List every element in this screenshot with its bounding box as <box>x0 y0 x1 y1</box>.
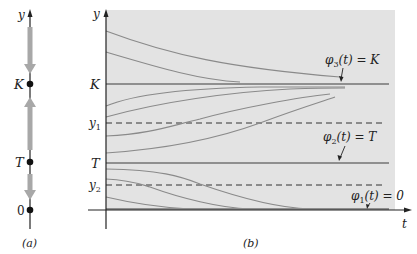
critical-point-0 <box>27 207 34 214</box>
svg-text:φ1(t) = 0: φ1(t) = 0 <box>351 189 404 205</box>
figure: y K T 0 (a) <box>0 0 417 254</box>
plot-background <box>106 10 395 210</box>
y-axis-label: y <box>92 7 100 21</box>
point-label-0: 0 <box>17 204 25 218</box>
critical-point-T <box>27 159 34 166</box>
y-tick-T: T <box>91 156 101 171</box>
flow-arrow-up-middle <box>24 97 36 150</box>
panel-a-axis-label: y <box>17 8 25 22</box>
panel-a-axis-arrowhead-icon <box>28 9 33 17</box>
y-tick-y2: y2 <box>88 178 101 194</box>
flow-arrow-down-lower <box>24 174 36 200</box>
point-label-K: K <box>13 77 25 92</box>
panel-a: y K T 0 (a) <box>13 8 37 250</box>
y-tick-K: K <box>89 77 101 92</box>
flow-arrow-down-upper <box>24 27 36 74</box>
svg-text:φ3(t) = K: φ3(t) = K <box>325 53 380 69</box>
t-axis-arrowhead-icon <box>404 208 412 213</box>
panel-a-caption: (a) <box>22 237 37 250</box>
critical-point-K <box>27 81 34 88</box>
y-tick-y1: y1 <box>88 116 101 132</box>
svg-text:φ2(t) = T: φ2(t) = T <box>323 130 377 146</box>
point-label-T: T <box>15 155 25 170</box>
t-axis-label: t <box>402 217 407 231</box>
panel-b: y t K y1 T y2 φ3(t) = K φ2(t) = T φ1(t) … <box>88 7 412 250</box>
panel-b-caption: (b) <box>243 237 259 250</box>
